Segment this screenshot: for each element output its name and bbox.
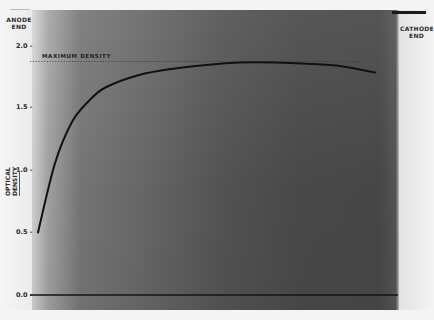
density-curve [38, 62, 375, 232]
